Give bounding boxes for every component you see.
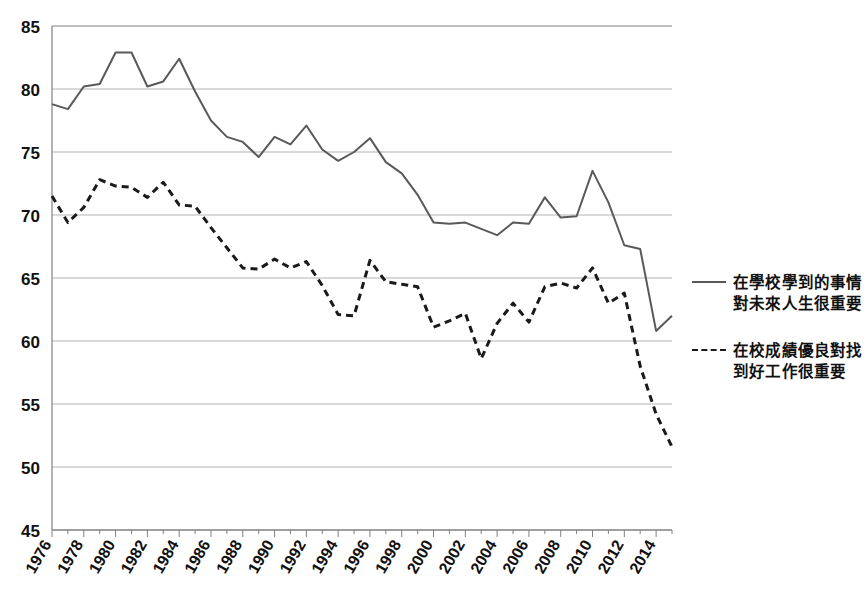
y-axis-tick-label: 75: [21, 144, 40, 163]
y-axis-tick-label: 80: [21, 81, 40, 100]
x-axis-tick-label: 1982: [117, 537, 150, 576]
x-axis-tick-label: 2006: [499, 537, 532, 576]
legend-label-solid: 在學校學到的事情 對未來人生很重要: [733, 272, 868, 314]
x-axis-tick-label: 1986: [181, 537, 214, 576]
y-axis-tick-label: 50: [21, 459, 40, 478]
y-axis-tick-label: 85: [21, 18, 40, 37]
y-axis-tick-label: 60: [21, 333, 40, 352]
x-axis-tick-label: 1984: [149, 537, 182, 576]
legend-label-solid-line1: 在學校學到的事情: [733, 274, 863, 291]
series-line-1: [52, 52, 672, 330]
x-axis-tick-label: 2014: [626, 537, 659, 576]
series-line-2: [52, 180, 672, 447]
chart-legend: 在學校學到的事情 對未來人生很重要 在校成績優良對找 到好工作很重要: [692, 272, 868, 408]
x-axis-tick-label: 1998: [372, 537, 405, 576]
x-axis-tick-label: 1988: [213, 537, 246, 576]
x-axis-tick-label: 2010: [563, 537, 596, 576]
legend-label-dashed: 在校成績優良對找 到好工作很重要: [733, 340, 868, 382]
y-axis-tick-label: 65: [21, 270, 40, 289]
x-axis-tick-label: 1992: [276, 537, 309, 576]
x-axis-tick-label: 2000: [404, 537, 437, 576]
legend-label-dashed-line2: 到好工作很重要: [733, 363, 846, 380]
y-axis-tick-label: 70: [21, 207, 40, 226]
y-axis-tick-label: 55: [21, 396, 40, 415]
legend-line-dashed-icon: [692, 349, 726, 351]
x-axis-tick-label: 2004: [467, 537, 500, 576]
x-axis-tick-label: 2002: [435, 537, 468, 576]
legend-line-solid-icon: [692, 281, 726, 283]
x-axis-tick-label: 1990: [245, 537, 278, 576]
x-axis-tick-label: 1996: [340, 537, 373, 576]
x-axis-tick-label: 1976: [22, 537, 55, 576]
legend-item-dashed: 在校成績優良對找 到好工作很重要: [692, 340, 868, 382]
legend-item-solid: 在學校學到的事情 對未來人生很重要: [692, 272, 868, 314]
legend-label-solid-line2: 對未來人生很重要: [733, 295, 863, 312]
x-axis-tick-label: 2012: [594, 537, 627, 576]
legend-label-dashed-line1: 在校成績優良對找: [733, 342, 863, 359]
x-axis-tick-label: 2008: [531, 537, 564, 576]
x-axis-tick-label: 1978: [54, 537, 87, 576]
x-axis-tick-label: 1994: [308, 537, 341, 576]
x-axis-tick-label: 1980: [86, 537, 119, 576]
y-axis-tick-label: 45: [21, 522, 40, 541]
chart-container: 4550556065707580851976197819801982198419…: [0, 0, 868, 590]
